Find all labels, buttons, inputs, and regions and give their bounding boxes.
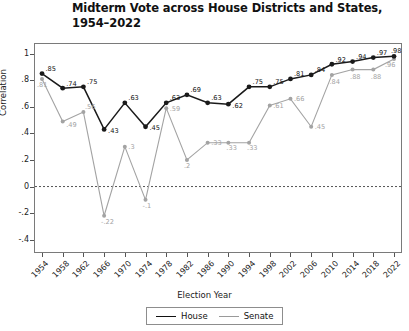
point-value-label: .94 xyxy=(356,53,367,61)
x-tick-mark xyxy=(208,253,209,257)
legend-label-senate: Senate xyxy=(244,311,274,321)
y-tick-label: .2 xyxy=(7,155,29,164)
point-value-label: .33 xyxy=(226,144,237,152)
point-value-label: .97 xyxy=(377,49,388,57)
x-tick-mark xyxy=(311,253,312,257)
point-value-label: .88 xyxy=(350,73,361,81)
point-value-label: .84 xyxy=(329,78,340,86)
x-tick-mark xyxy=(290,253,291,257)
x-tick-label: 1974 xyxy=(131,259,154,282)
x-tick-label: 2002 xyxy=(275,259,298,282)
point-value-label: .69 xyxy=(190,86,201,94)
y-tick-mark xyxy=(30,133,34,134)
x-tick-label: 1986 xyxy=(193,259,216,282)
point-value-label: .81 xyxy=(294,70,305,78)
point-value-label: -.1 xyxy=(143,202,152,210)
legend-line-house-icon xyxy=(156,316,176,317)
point-value-label: .59 xyxy=(170,105,181,113)
point-value-label: .85 xyxy=(46,65,57,73)
legend-item-house: House xyxy=(156,311,208,321)
legend-label-house: House xyxy=(181,311,208,321)
point-value-label: .33 xyxy=(211,139,222,147)
x-tick-label: 2010 xyxy=(317,259,340,282)
x-tick-mark xyxy=(332,253,333,257)
x-tick-mark xyxy=(83,253,84,257)
x-tick-label: 2006 xyxy=(296,259,319,282)
point-value-label: -.22 xyxy=(101,218,114,226)
x-tick-label: 1982 xyxy=(172,259,195,282)
x-tick-mark xyxy=(63,253,64,257)
y-tick-mark xyxy=(30,187,34,188)
x-tick-mark xyxy=(42,253,43,257)
point-value-label: .88 xyxy=(371,73,382,81)
x-tick-label: 2014 xyxy=(338,259,361,282)
point-value-label: .61 xyxy=(273,102,284,110)
x-tick-mark xyxy=(125,253,126,257)
x-tick-mark xyxy=(270,253,271,257)
point-value-label: .92 xyxy=(335,56,346,64)
x-tick-mark xyxy=(249,253,250,257)
x-tick-label: 1954 xyxy=(27,259,50,282)
y-tick-mark xyxy=(30,240,34,241)
x-tick-mark xyxy=(187,253,188,257)
point-value-label: .45 xyxy=(315,123,326,131)
point-value-label: .74 xyxy=(66,80,77,88)
y-tick-mark xyxy=(30,160,34,161)
point-value-label: .49 xyxy=(66,121,77,129)
x-tick-label: 1994 xyxy=(234,259,257,282)
point-value-label: .63 xyxy=(170,94,181,102)
point-value-label: .66 xyxy=(294,95,305,103)
point-value-label: .3 xyxy=(128,143,134,151)
legend-item-senate: Senate xyxy=(219,311,274,321)
y-tick-label: .8 xyxy=(7,75,29,84)
point-value-label: .62 xyxy=(232,102,243,110)
x-tick-label: 2018 xyxy=(358,259,381,282)
x-tick-label: 1990 xyxy=(213,259,236,282)
chart-container: Midterm Vote across House Districts and … xyxy=(0,0,409,331)
x-tick-mark xyxy=(373,253,374,257)
y-tick-mark xyxy=(30,213,34,214)
point-value-label: .81 xyxy=(37,81,48,89)
y-tick-label: -.2 xyxy=(7,208,29,217)
point-value-label: .98 xyxy=(391,47,402,55)
point-value-label: .63 xyxy=(211,94,222,102)
x-tick-label: 1966 xyxy=(89,259,112,282)
x-tick-mark xyxy=(228,253,229,257)
chart-legend: House Senate xyxy=(146,307,283,325)
y-tick-mark xyxy=(30,80,34,81)
legend-line-senate-icon xyxy=(219,316,239,317)
y-tick-label: -.4 xyxy=(7,235,29,244)
x-axis-label: Election Year xyxy=(0,290,409,300)
y-tick-label: .6 xyxy=(7,102,29,111)
x-tick-mark xyxy=(394,253,395,257)
x-tick-mark xyxy=(353,253,354,257)
point-value-label: .75 xyxy=(273,78,284,86)
x-tick-label: 2022 xyxy=(379,259,402,282)
plot-area xyxy=(34,43,402,253)
point-value-label: .63 xyxy=(128,94,139,102)
x-tick-mark xyxy=(104,253,105,257)
x-tick-label: 1978 xyxy=(151,259,174,282)
x-tick-label: 1962 xyxy=(68,259,91,282)
point-value-label: .75 xyxy=(253,78,264,86)
x-tick-label: 1998 xyxy=(255,259,278,282)
y-tick-label: 0 xyxy=(7,182,29,191)
point-value-label: .84 xyxy=(315,66,326,74)
x-tick-label: 1970 xyxy=(110,259,133,282)
point-value-label: .33 xyxy=(247,144,258,152)
point-value-label: .43 xyxy=(108,127,119,135)
y-tick-label: .4 xyxy=(7,128,29,137)
point-value-label: .2 xyxy=(184,162,190,170)
point-value-label: .45 xyxy=(150,124,161,132)
y-tick-mark xyxy=(30,54,34,55)
y-tick-label: 1 xyxy=(7,49,29,58)
point-value-label: .75 xyxy=(87,78,98,86)
point-value-label: .56 xyxy=(85,103,96,111)
chart-title: Midterm Vote across House Districts and … xyxy=(72,1,402,30)
y-tick-mark xyxy=(30,107,34,108)
point-value-label: .96 xyxy=(385,61,396,69)
x-tick-mark xyxy=(166,253,167,257)
x-tick-label: 1958 xyxy=(48,259,71,282)
x-tick-mark xyxy=(146,253,147,257)
